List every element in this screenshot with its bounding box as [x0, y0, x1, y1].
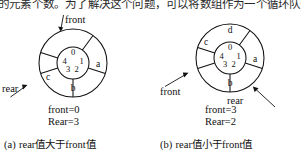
figure-b-rear-value: Rear=2	[205, 116, 237, 128]
figure-a-front-arrow-line	[61, 15, 64, 29]
figure-a-index-2: 2	[74, 64, 78, 74]
figure-a-spoke-4	[41, 53, 58, 59]
figure-a-caption-latin-2: front	[65, 139, 85, 150]
figure-b-caption-cn-2: 值	[242, 138, 252, 150]
figure-a-caption: (a) rear值大于front值	[4, 136, 96, 151]
figure-a-circular-queue: front rear 0 1 2 3 4 a b c front=	[0, 12, 150, 154]
figure-b-caption: (b) rear值小于front值	[160, 136, 252, 151]
figure-b-sector-1: a	[253, 54, 258, 64]
figure-b-sector-2: b	[228, 78, 233, 88]
figure-b-index-1: 1	[236, 51, 240, 61]
figure-a-rear-arrowhead	[22, 85, 28, 90]
figure-a-rear-value: Rear=3	[48, 116, 80, 128]
figure-a-sector-3: c	[46, 72, 50, 82]
figure-b-front-value: front=3	[205, 104, 237, 116]
figure-b-caption-latin-1: rear	[176, 139, 192, 150]
page-body-text-clipped: 的元素个数。为了解决这个问题，可以将数组作为一个循环队列来使用，即当 long	[0, 0, 301, 11]
figure-b-spoke-0	[239, 31, 250, 46]
figure-a-index-1: 1	[79, 56, 83, 66]
figure-a-sector-1: a	[96, 59, 101, 69]
figure-b-caption-cn-1: 值小于	[192, 138, 222, 150]
figure-a-front-label: front	[65, 14, 85, 25]
figure-b-index-0: 0	[228, 42, 232, 52]
figure-b-caption-latin-2: front	[222, 139, 242, 150]
figure-a-rear-label: rear	[2, 83, 18, 94]
figure-a-index-0: 0	[71, 47, 75, 57]
figure-b-index-2: 2	[231, 59, 235, 69]
figure-a-sector-2: b	[71, 83, 76, 93]
figure-a-caption-prefix: (a)	[4, 139, 16, 150]
figure-a-caption-latin-1: rear	[19, 139, 35, 150]
figure-b-sector-3: c	[204, 37, 208, 47]
figure-b-spoke-4	[198, 48, 215, 54]
figure-b-caption-prefix: (b)	[160, 139, 172, 150]
body-text-line: 的元素个数。为了解决这个问题，可以将数组作为一个循环队列来使用，即当 long	[0, 0, 301, 11]
figure-b-front-arrow-line	[165, 75, 186, 87]
figure-a-caption-cn-2: 值	[86, 138, 96, 150]
figure-b-circular-queue: front rear 0 1 2 3 4 d a b c front=3 Rea…	[151, 12, 301, 154]
figure-a-pointer-values: front=0 Rear=3	[48, 104, 80, 127]
figure-b-front-arrowhead	[183, 73, 189, 78]
figure-a-caption-cn-1: 值大于	[35, 138, 65, 150]
figure-a-spoke-0	[82, 36, 93, 51]
figure-b-spoke-3	[198, 63, 215, 69]
figure-a-front-value: front=0	[48, 104, 80, 116]
figure-b-pointer-values: front=3 Rear=2	[205, 104, 237, 127]
figure-b-rear-arrow-line	[256, 89, 276, 107]
figure-b-sector-0: d	[228, 25, 233, 35]
figure-b-front-label: front	[160, 86, 180, 97]
